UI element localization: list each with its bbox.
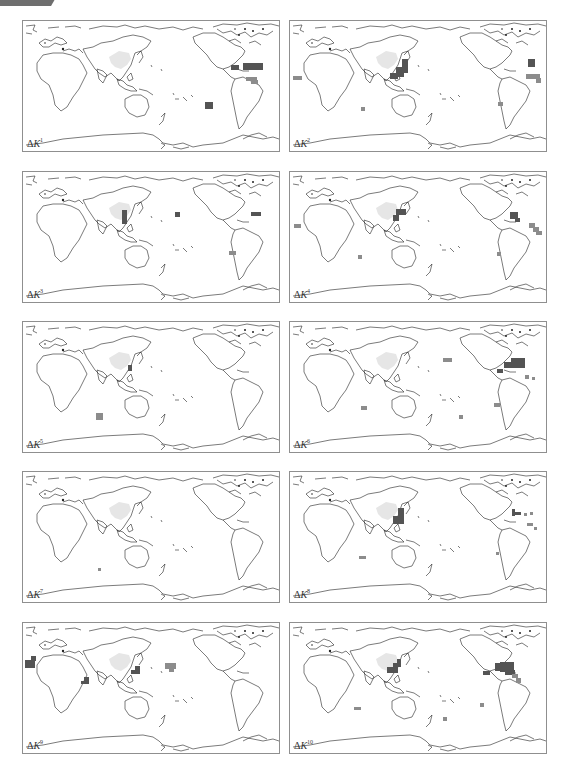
world-map xyxy=(23,623,280,754)
map-panel-1: ΔK1 xyxy=(22,20,280,152)
map-panel-3: ΔK3 xyxy=(22,171,280,303)
highlight-cell xyxy=(397,659,401,667)
highlight-cell xyxy=(497,369,503,373)
panel-label: ΔK5 xyxy=(27,439,43,450)
world-map xyxy=(23,21,280,152)
highlight-cell xyxy=(530,512,533,515)
panel-label: ΔK8 xyxy=(294,589,310,600)
map-panel-9: ΔK9 xyxy=(22,622,280,754)
highlight-cell xyxy=(524,513,527,516)
map-panel-7: ΔK7 xyxy=(22,471,280,603)
highlight-cell xyxy=(205,102,213,109)
highlight-cell xyxy=(229,251,236,255)
world-map xyxy=(290,21,547,152)
highlight-cell xyxy=(504,362,512,368)
panel-label: ΔK7 xyxy=(27,589,43,600)
highlight-cell xyxy=(361,107,365,111)
highlight-cell xyxy=(359,556,366,559)
highlight-cell xyxy=(25,660,35,668)
highlight-cell xyxy=(532,377,535,380)
highlight-cell xyxy=(294,224,301,228)
world-map xyxy=(23,172,280,303)
panel-label: ΔK4 xyxy=(294,289,310,300)
highlight-cell xyxy=(443,717,447,721)
highlight-cell xyxy=(31,656,36,661)
highlight-cell xyxy=(231,65,239,70)
highlight-cell xyxy=(511,358,525,368)
highlight-cell xyxy=(536,78,541,83)
highlight-cell xyxy=(480,703,484,707)
world-map xyxy=(290,472,547,603)
panel-label: ΔK2 xyxy=(294,138,310,149)
highlight-cell xyxy=(175,212,180,217)
map-panel-10: ΔK10 xyxy=(289,622,547,754)
highlight-cell xyxy=(81,681,86,684)
highlight-cell xyxy=(358,255,362,259)
highlight-cell xyxy=(128,365,132,371)
highlight-cell xyxy=(393,215,399,221)
highlight-cell xyxy=(515,218,520,222)
world-map xyxy=(290,322,547,453)
world-map xyxy=(23,322,280,453)
highlight-cell xyxy=(498,102,503,106)
highlight-cell xyxy=(525,375,529,379)
highlight-cell xyxy=(393,516,399,524)
highlight-cell xyxy=(131,670,136,674)
highlight-cell xyxy=(494,403,500,407)
panel-label: ΔK6 xyxy=(294,439,310,450)
map-panel-5: ΔK5 xyxy=(22,321,280,453)
highlight-cell xyxy=(361,406,367,410)
highlight-cell xyxy=(497,252,501,256)
world-map xyxy=(290,623,547,754)
panel-label: ΔK10 xyxy=(294,740,313,751)
highlight-cell xyxy=(534,527,537,530)
highlight-cell xyxy=(527,523,533,526)
highlight-cell xyxy=(98,568,101,571)
highlight-cell xyxy=(443,358,452,362)
page-header xyxy=(0,0,569,8)
highlight-cell xyxy=(390,73,398,79)
world-map xyxy=(290,172,547,303)
highlight-cell xyxy=(536,231,542,235)
highlight-cell xyxy=(354,707,361,710)
panel-label: ΔK9 xyxy=(27,740,43,751)
highlight-cell xyxy=(169,668,174,672)
map-panel-4: ΔK4 xyxy=(289,171,547,303)
highlight-cell xyxy=(243,63,263,70)
running-head xyxy=(75,0,275,4)
highlight-cell xyxy=(459,415,463,419)
highlight-cell xyxy=(512,512,521,515)
map-panel-2: ΔK2 xyxy=(289,20,547,152)
highlight-cell xyxy=(483,671,490,675)
highlight-cell xyxy=(293,76,302,80)
highlight-cell xyxy=(251,212,261,216)
highlight-cell xyxy=(528,59,535,67)
panel-label: ΔK1 xyxy=(27,138,43,149)
highlight-cell xyxy=(496,552,499,555)
highlight-cell xyxy=(251,80,258,84)
map-panel-6: ΔK6 xyxy=(289,321,547,453)
panel-label: ΔK3 xyxy=(27,289,43,300)
world-map xyxy=(23,472,280,603)
highlight-cell xyxy=(516,678,521,683)
header-tab xyxy=(0,0,58,6)
map-panel-8: ΔK8 xyxy=(289,471,547,603)
highlight-cell xyxy=(96,413,103,420)
highlight-cell xyxy=(122,210,127,224)
